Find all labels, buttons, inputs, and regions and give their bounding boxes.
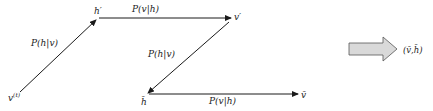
- edge-vt-to-hprime: [20, 20, 96, 92]
- node-v-prime: v′: [234, 12, 241, 22]
- node-v-t: v(t): [8, 91, 21, 103]
- edge-label-vt-hprime: P(h|v): [30, 38, 58, 49]
- edge-label-vprime-hbar: P(h|v): [147, 49, 175, 60]
- result-label: (v̄,h̄): [403, 44, 423, 55]
- node-v-bar: v̄: [301, 90, 306, 100]
- edge-label-hprime-vprime: P(v|h): [131, 4, 159, 15]
- edge-label-hbar-vbar: P(v|h): [208, 96, 236, 107]
- gibbs-chain-diagram: v(t) h′ v′ h̄ v̄ P(h|v) P(v|h) P(h|v) P(…: [0, 0, 433, 111]
- result-block-arrow-icon: [349, 37, 397, 61]
- node-h-bar: h̄: [141, 96, 147, 107]
- node-h-prime: h′: [94, 6, 102, 16]
